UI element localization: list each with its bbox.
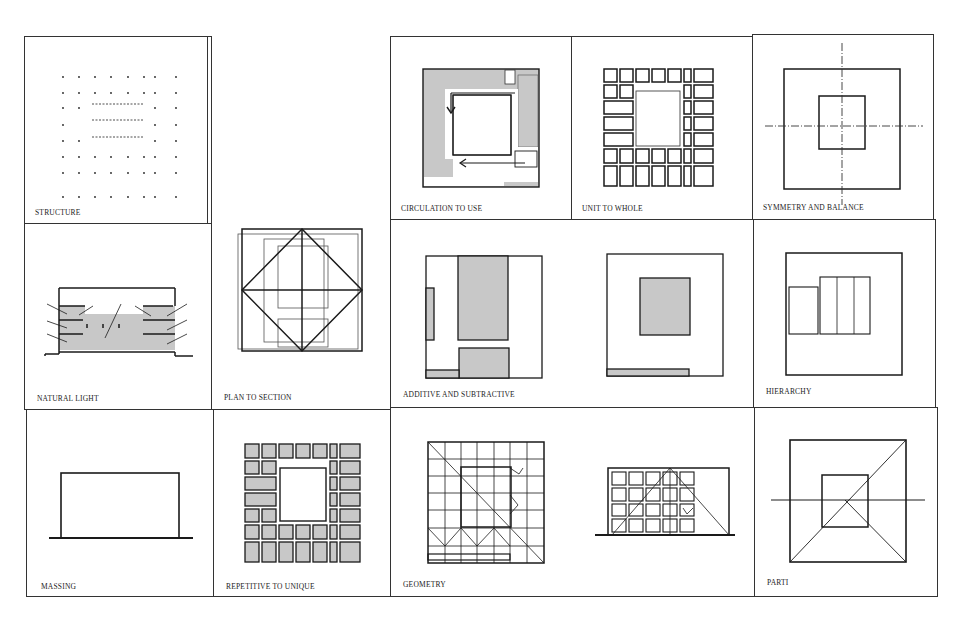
label-natural-light: NATURAL LIGHT (37, 394, 99, 403)
natural-light-diagram (25, 224, 213, 411)
panel-structure: STRUCTURE (24, 36, 208, 224)
architecture-analysis-sheet: STRUCTURE (0, 0, 979, 621)
symmetry-diagram (753, 35, 935, 221)
circulation-diagram (391, 37, 573, 221)
panel-hierarchy: HIERARCHY (753, 219, 936, 410)
panel-natural-light: NATURAL LIGHT (24, 223, 212, 410)
additive-subtractive-diagram (391, 220, 755, 411)
parti-diagram (755, 408, 939, 598)
panel-unit-to-whole: UNIT TO WHOLE (571, 36, 753, 220)
panel-massing: MASSING (26, 409, 214, 597)
label-structure: STRUCTURE (35, 208, 81, 217)
label-additive-subtractive: ADDITIVE AND SUBTRACTIVE (403, 390, 515, 399)
structure-diagram (25, 37, 209, 225)
panel-circulation: CIRCULATION TO USE (390, 36, 572, 220)
label-repetitive-unique: REPETITIVE TO UNIQUE (226, 582, 315, 591)
panel-symmetry: SYMMETRY AND BALANCE (752, 34, 934, 220)
label-parti: PARTI (767, 578, 789, 587)
panel-geometry: GEOMETRY (390, 407, 755, 597)
plan-to-section-diagram (212, 36, 392, 410)
label-geometry: GEOMETRY (403, 580, 446, 589)
label-plan-to-section: PLAN TO SECTION (224, 393, 292, 402)
panel-additive-subtractive: ADDITIVE AND SUBTRACTIVE (390, 219, 754, 410)
label-symmetry: SYMMETRY AND BALANCE (763, 203, 864, 212)
label-unit-to-whole: UNIT TO WHOLE (582, 204, 643, 213)
panel-plan-to-section: PLAN TO SECTION (211, 36, 391, 410)
geometry-diagram (391, 408, 756, 598)
label-hierarchy: HIERARCHY (766, 387, 812, 396)
panel-parti: PARTI (754, 407, 938, 597)
massing-diagram (27, 410, 215, 598)
unit-to-whole-diagram (572, 37, 754, 221)
panel-repetitive-unique: REPETITIVE TO UNIQUE (213, 409, 391, 597)
hierarchy-diagram (754, 220, 937, 411)
label-circulation: CIRCULATION TO USE (401, 204, 482, 213)
label-massing: MASSING (41, 582, 76, 591)
repetitive-unique-diagram (214, 410, 392, 598)
